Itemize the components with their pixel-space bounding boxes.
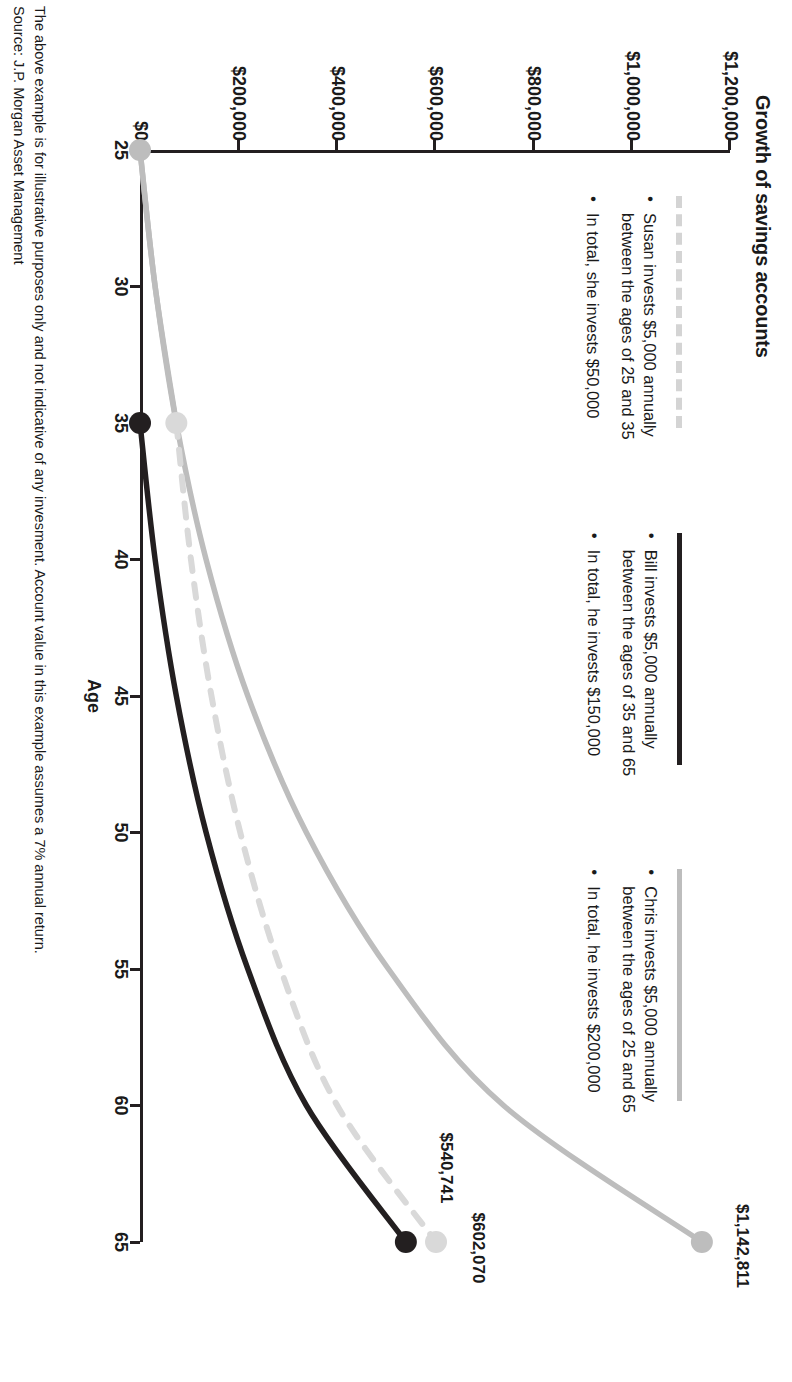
- y-axis-tick-label: $1,000,000: [622, 51, 643, 141]
- footnote-disclaimer: The above example is for illustrative pu…: [29, 6, 50, 954]
- legend-bullet: Susan invests $5,000 annually between th…: [616, 196, 660, 445]
- legend-entry-susan: Susan invests $5,000 annually between th…: [569, 196, 682, 445]
- data-point-marker: [691, 1231, 713, 1253]
- y-axis-tick: [729, 140, 732, 150]
- y-axis-tick: [532, 140, 535, 150]
- y-axis-tick: [434, 140, 437, 150]
- x-axis-tick: [130, 831, 140, 834]
- y-axis-tick-label: $600,000: [425, 66, 446, 141]
- endpoint-value-label: $1,142,811: [732, 1204, 752, 1288]
- x-axis-tick-label: 40: [110, 549, 131, 569]
- y-axis-tick-label: $1,200,000: [720, 51, 741, 141]
- x-axis-tick: [130, 558, 140, 561]
- y-axis-tick-label: $400,000: [327, 66, 348, 141]
- data-point-marker: [395, 1231, 417, 1253]
- series-line-bill: [140, 423, 406, 1242]
- x-axis-tick-label: 50: [110, 822, 131, 842]
- endpoint-value-label: $602,070: [468, 1213, 488, 1284]
- legend: Susan invests $5,000 annually between th…: [569, 196, 682, 1206]
- data-point-marker: [129, 412, 151, 434]
- legend-bullet: In total, he invests $200,000: [583, 869, 605, 1118]
- x-axis-tick: [130, 968, 140, 971]
- x-axis-tick-label: 65: [110, 1232, 131, 1252]
- rotated-page-wrapper: Growth of savings accounts $0$200,000$40…: [0, 0, 792, 1382]
- x-axis-tick-label: 30: [110, 276, 131, 296]
- page-title: Growth of savings accounts: [751, 95, 774, 358]
- legend-bullet: In total, she invests $50,000: [582, 196, 604, 445]
- legend-bullet: Chris invests $5,000 annually between th…: [617, 869, 661, 1118]
- footnotes: The above example is for illustrative pu…: [8, 6, 50, 954]
- x-axis-tick: [130, 285, 140, 288]
- legend-bullet: In total, he invests $150,000: [583, 533, 605, 782]
- endpoint-value-label: $540,741: [436, 1133, 456, 1204]
- y-axis-tick: [237, 140, 240, 150]
- x-axis-tick-label: 25: [110, 140, 131, 160]
- y-axis-tick-label: $800,000: [523, 66, 544, 141]
- susan-line-swatch-icon: [676, 196, 682, 428]
- data-point-marker: [165, 412, 187, 434]
- y-axis-tick-label: $200,000: [228, 66, 249, 141]
- chart-sheet: Growth of savings accounts $0$200,000$40…: [0, 0, 792, 1382]
- x-axis-tick-label: 55: [110, 959, 131, 979]
- data-point-marker: [425, 1231, 447, 1253]
- legend-bullet: Bill invests $5,000 annually between the…: [617, 533, 661, 782]
- footnote-source: Source: J.P. Morgan Asset Management: [8, 6, 29, 954]
- y-axis-tick: [630, 140, 633, 150]
- x-axis-tick-label: 60: [110, 1095, 131, 1115]
- x-axis-tick-label: 35: [110, 413, 131, 433]
- x-axis-tick-label: 45: [110, 686, 131, 706]
- bill-line-swatch-icon: [677, 533, 682, 765]
- y-axis-tick: [335, 140, 338, 150]
- chris-line-swatch-icon: [677, 869, 682, 1101]
- data-point-marker: [129, 139, 151, 161]
- x-axis-tick: [130, 695, 140, 698]
- x-axis-title: Age: [83, 679, 104, 713]
- legend-entry-bill: Bill invests $5,000 annually between the…: [569, 533, 682, 782]
- x-axis-tick: [130, 1104, 140, 1107]
- x-axis-tick: [130, 1241, 140, 1244]
- y-axis-tick-label: $0: [130, 121, 151, 141]
- legend-entry-chris: Chris invests $5,000 annually between th…: [569, 869, 682, 1118]
